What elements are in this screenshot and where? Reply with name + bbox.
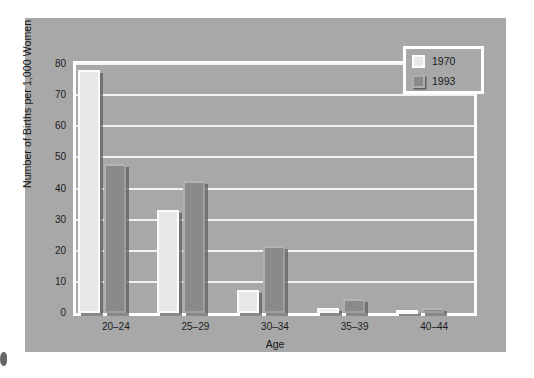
bar-body bbox=[104, 164, 126, 313]
bar-1970-35-39 bbox=[317, 308, 339, 313]
x-tick-label: 30–34 bbox=[261, 322, 289, 332]
edge-artifact-mark bbox=[0, 352, 7, 366]
legend-entry-1970: 1970 bbox=[412, 53, 455, 70]
y-tick-label: 10 bbox=[55, 277, 66, 287]
y-tick-label: 0 bbox=[60, 308, 66, 318]
bar-1993-20-24 bbox=[104, 164, 126, 313]
y-axis-title: Number of Births per 1,000 Women bbox=[21, 20, 33, 188]
y-tick-label: 80 bbox=[55, 59, 66, 69]
bar-body bbox=[317, 308, 339, 313]
bar-body bbox=[343, 299, 365, 313]
bar-1970-20-24 bbox=[78, 70, 100, 313]
bar-1970-25-29 bbox=[157, 210, 179, 313]
y-tick-label: 70 bbox=[55, 90, 66, 100]
legend-label-1970: 1970 bbox=[432, 56, 455, 67]
bar-series-layer bbox=[76, 64, 474, 313]
y-tick-label: 20 bbox=[55, 246, 66, 256]
bar-body bbox=[183, 181, 205, 313]
bar-1993-40-44 bbox=[422, 308, 444, 313]
bar-body bbox=[422, 308, 444, 313]
y-tick-label: 30 bbox=[55, 215, 66, 225]
x-tick-label: 25–29 bbox=[181, 322, 209, 332]
legend-swatch-1970-icon bbox=[412, 55, 425, 68]
legend-swatch-1993-icon bbox=[412, 75, 425, 88]
bar-1993-30-34 bbox=[263, 246, 285, 313]
y-tick-label: 40 bbox=[55, 184, 66, 194]
x-tick-label: 20–24 bbox=[102, 322, 130, 332]
x-axis-title: Age bbox=[266, 338, 285, 350]
chart-panel: Number of Births per 1,000 Women 0102030… bbox=[25, 18, 506, 352]
plot-area bbox=[73, 61, 477, 316]
legend-entry-1993: 1993 bbox=[412, 73, 455, 90]
bar-body bbox=[237, 290, 259, 313]
bar-body bbox=[78, 70, 100, 313]
x-tick-label: 40–44 bbox=[420, 322, 448, 332]
bar-body bbox=[263, 246, 285, 313]
y-tick-label: 60 bbox=[55, 121, 66, 131]
y-tick-label: 50 bbox=[55, 152, 66, 162]
chart-figure: Number of Births per 1,000 Women 0102030… bbox=[0, 0, 534, 378]
bar-body bbox=[157, 210, 179, 313]
bar-body bbox=[396, 310, 418, 314]
bar-1993-25-29 bbox=[183, 181, 205, 313]
bar-1993-35-39 bbox=[343, 299, 365, 313]
bar-1970-40-44 bbox=[396, 310, 418, 313]
x-tick-label: 35–39 bbox=[341, 322, 369, 332]
legend-label-1993: 1993 bbox=[432, 76, 455, 87]
chart-legend: 1970 1993 bbox=[403, 46, 484, 94]
bar-1970-30-34 bbox=[237, 290, 259, 313]
